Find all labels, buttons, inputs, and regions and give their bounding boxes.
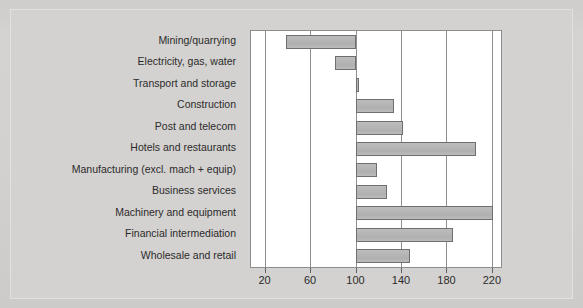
bar-series xyxy=(251,31,501,267)
category-label: Business services xyxy=(152,180,236,202)
axis-tick-label: 20 xyxy=(259,274,271,286)
axis-tick-140 xyxy=(401,268,402,273)
category-label: Post and telecom xyxy=(155,116,236,138)
value-axis-labels: 2060100140180220 xyxy=(250,274,502,290)
bar xyxy=(356,249,411,263)
bar-row xyxy=(251,31,501,52)
category-label: Electricity, gas, water xyxy=(138,51,236,73)
bar-row xyxy=(251,74,501,95)
axis-tick-100 xyxy=(356,268,357,273)
bar xyxy=(286,35,355,49)
bar xyxy=(356,163,378,177)
bar-row xyxy=(251,52,501,73)
bar xyxy=(356,78,359,92)
bar-row xyxy=(251,138,501,159)
bar xyxy=(356,228,454,242)
category-axis-labels: Mining/quarryingElectricity, gas, waterT… xyxy=(26,30,244,268)
bar-row xyxy=(251,95,501,116)
category-label: Hotels and restaurants xyxy=(130,137,236,159)
bar xyxy=(356,185,388,199)
axis-tick-180 xyxy=(446,268,447,273)
bar-row xyxy=(251,160,501,181)
axis-tick-220 xyxy=(492,268,493,273)
bar-row xyxy=(251,203,501,224)
category-label: Manufacturing (excl. mach + equip) xyxy=(72,159,236,181)
category-label: Financial intermediation xyxy=(125,223,236,245)
plot-area xyxy=(250,30,502,268)
axis-tick-label: 220 xyxy=(483,274,501,286)
axis-tick-label: 140 xyxy=(392,274,410,286)
axis-tick-label: 180 xyxy=(437,274,455,286)
bar-row xyxy=(251,181,501,202)
axis-tick-label: 60 xyxy=(304,274,316,286)
bar xyxy=(356,142,476,156)
horizontal-bar-chart: Mining/quarryingElectricity, gas, waterT… xyxy=(0,0,583,308)
bar xyxy=(356,206,494,220)
category-label: Machinery and equipment xyxy=(115,202,236,224)
bar xyxy=(356,121,404,135)
category-label: Construction xyxy=(177,94,236,116)
category-label: Mining/quarrying xyxy=(158,30,236,52)
bar xyxy=(356,99,395,113)
bar-row xyxy=(251,246,501,267)
bar-row xyxy=(251,224,501,245)
axis-tick-20 xyxy=(265,268,266,273)
category-label: Wholesale and retail xyxy=(141,245,236,267)
axis-tick-60 xyxy=(310,268,311,273)
bar-row xyxy=(251,117,501,138)
category-label: Transport and storage xyxy=(133,73,236,95)
bar xyxy=(335,56,355,70)
axis-tick-label: 100 xyxy=(346,274,364,286)
